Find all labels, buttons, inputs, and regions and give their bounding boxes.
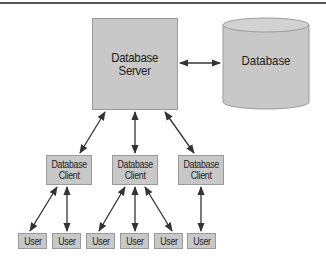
database-server-node: Database Server <box>92 18 178 110</box>
database-client-node-3: Database Client <box>178 155 224 185</box>
user-label: User <box>126 236 144 247</box>
arrow-server-client-1 <box>80 112 105 153</box>
database-label: Database <box>227 53 304 68</box>
user-node-5: User <box>154 233 183 249</box>
arrow-server-client-3 <box>165 112 194 153</box>
user-node-4: User <box>120 233 149 249</box>
database-client-label: Database Client <box>117 159 153 181</box>
user-node-1: User <box>18 233 47 249</box>
database-client-node-1: Database Client <box>46 155 92 185</box>
user-label: User <box>58 236 76 247</box>
database-client-label: Database Client <box>183 159 219 181</box>
user-node-6: User <box>187 233 216 249</box>
user-label: User <box>193 236 211 247</box>
user-node-2: User <box>52 233 81 249</box>
arrow-client-1-user-1 <box>30 187 57 231</box>
database-client-label: Database Client <box>51 159 87 181</box>
user-label: User <box>92 236 110 247</box>
user-label: User <box>160 236 178 247</box>
database-server-label: Database Server <box>112 51 159 77</box>
user-label: User <box>24 236 42 247</box>
database-node: Database <box>222 17 310 111</box>
user-node-3: User <box>86 233 115 249</box>
database-client-node-2: Database Client <box>112 155 158 185</box>
arrow-client-2-user-5 <box>145 187 172 231</box>
arrow-client-2-user-3 <box>99 187 125 231</box>
